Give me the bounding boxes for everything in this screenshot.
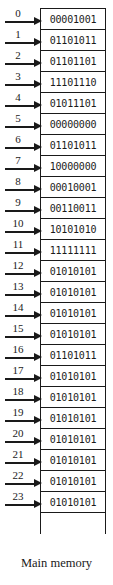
right-arrow-head-icon [34,80,42,88]
diagram-caption: Main memory [0,556,113,571]
right-arrow-head-icon [34,311,42,319]
address-label: 18 [3,385,33,398]
address-arrow: 23 [3,491,42,512]
address-label: 13 [3,280,33,293]
memory-cell-value: 01010101 [41,371,105,382]
memory-cell: 01010101 [40,281,106,302]
memory-cell-value: 01010101 [41,413,105,424]
memory-cell: 00000000 [40,113,106,134]
address-label: 16 [3,343,33,356]
memory-cell-column: 0000100101101011011011011110111001011101… [40,8,106,534]
address-arrow: 5 [3,113,42,134]
memory-cell-value: 00001001 [41,14,105,25]
address-label: 5 [3,112,33,125]
memory-cell: 01101011 [40,29,106,50]
address-arrow: 16 [3,344,42,365]
address-label: 9 [3,196,33,209]
memory-cell: 11101110 [40,71,106,92]
right-arrow-icon [5,294,35,296]
right-arrow-icon [5,63,35,65]
right-arrow-icon [5,168,35,170]
right-arrow-head-icon [34,38,42,46]
memory-cell-value: 01010101 [41,476,105,487]
right-arrow-head-icon [34,395,42,403]
right-arrow-head-icon [34,101,42,109]
memory-cell-value: 01010101 [41,392,105,403]
address-label: 11 [3,238,33,251]
address-label: 2 [3,49,33,62]
address-label: 4 [3,91,33,104]
address-arrow: 6 [3,134,42,155]
right-arrow-head-icon [34,248,42,256]
address-arrow: 1 [3,29,42,50]
address-arrow: 7 [3,155,42,176]
memory-cell: 01010101 [40,365,106,386]
memory-cell-value: 11111111 [41,245,105,256]
address-label: 21 [3,448,33,461]
right-arrow-head-icon [34,374,42,382]
memory-cell: 00010001 [40,176,106,197]
address-arrow: 11 [3,239,42,260]
right-arrow-icon [5,420,35,422]
address-arrow: 20 [3,428,42,449]
main-memory-diagram: 0000100101101011011011011110111001011101… [0,0,113,585]
memory-cell: 01010101 [40,323,106,344]
address-arrow: 12 [3,260,42,281]
memory-cell-value: 01010101 [41,455,105,466]
memory-cell-value: 00010001 [41,182,105,193]
address-arrow: 8 [3,176,42,197]
address-arrow: 21 [3,449,42,470]
memory-cell-value: 01010101 [41,329,105,340]
address-arrow: 3 [3,71,42,92]
memory-cell-value: 01101011 [41,350,105,361]
memory-cell: 10000000 [40,155,106,176]
right-arrow-icon [5,42,35,44]
right-arrow-icon [5,231,35,233]
right-arrow-icon [5,399,35,401]
right-arrow-icon [5,126,35,128]
memory-cell: 01010101 [40,491,106,512]
memory-cell-value: 11101110 [41,77,105,88]
memory-cell-value: 01101011 [41,35,105,46]
address-arrow: 15 [3,323,42,344]
address-arrow: 14 [3,302,42,323]
right-arrow-icon [5,273,35,275]
right-arrow-head-icon [34,353,42,361]
right-arrow-head-icon [34,206,42,214]
address-arrow: 17 [3,365,42,386]
memory-cell-value: 01010101 [41,266,105,277]
right-arrow-head-icon [34,122,42,130]
memory-cell: 01011101 [40,92,106,113]
memory-cell: 10101010 [40,218,106,239]
right-arrow-head-icon [34,227,42,235]
memory-cell: 01101101 [40,50,106,71]
address-arrow: 13 [3,281,42,302]
address-label: 15 [3,322,33,335]
right-arrow-icon [5,252,35,254]
right-arrow-head-icon [34,290,42,298]
address-arrow: 10 [3,218,42,239]
right-arrow-icon [5,147,35,149]
memory-cell: 01010101 [40,449,106,470]
memory-cell: 01101011 [40,344,106,365]
memory-cell: 01101011 [40,134,106,155]
memory-cell-empty [40,512,106,534]
address-arrow: 18 [3,386,42,407]
right-arrow-icon [5,483,35,485]
right-arrow-icon [5,189,35,191]
address-label: 6 [3,133,33,146]
memory-cell-value: 01010101 [41,434,105,445]
memory-cell-value: 10101010 [41,224,105,235]
memory-cell: 00110011 [40,197,106,218]
right-arrow-head-icon [34,479,42,487]
right-arrow-icon [5,357,35,359]
address-label: 19 [3,406,33,419]
address-label: 20 [3,427,33,440]
memory-cell-value: 01010101 [41,308,105,319]
address-label: 8 [3,175,33,188]
address-label: 14 [3,301,33,314]
address-label: 3 [3,70,33,83]
right-arrow-head-icon [34,17,42,25]
memory-cell: 00001001 [40,8,106,29]
right-arrow-icon [5,315,35,317]
